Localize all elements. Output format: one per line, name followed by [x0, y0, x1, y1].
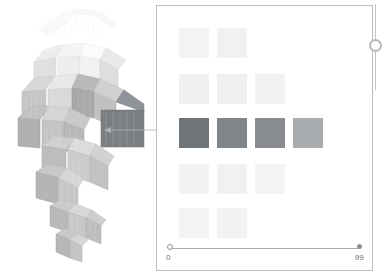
slider-handle-max[interactable]: [357, 244, 362, 249]
grid-cell[interactable]: [217, 118, 247, 148]
grid-cell-selected[interactable]: [179, 118, 209, 148]
detail-grid[interactable]: [157, 6, 372, 232]
grid-row[interactable]: [179, 28, 255, 66]
edge-knob-handle[interactable]: [369, 39, 382, 52]
edge-knob-control[interactable]: [368, 0, 384, 100]
detail-panel[interactable]: 0 99: [156, 5, 373, 271]
grid-row[interactable]: [179, 74, 293, 112]
grid-cell[interactable]: [293, 118, 323, 148]
slider-label-min: 0: [166, 253, 171, 263]
slider-handle-min[interactable]: [167, 244, 173, 250]
grid-cell[interactable]: [255, 164, 285, 194]
grid-cell[interactable]: [255, 74, 285, 104]
grid-cell[interactable]: [217, 164, 247, 194]
helix-selected-block[interactable]: [101, 110, 144, 147]
grid-row-highlighted[interactable]: [179, 118, 331, 156]
grid-row[interactable]: [179, 164, 293, 202]
helix-canvas[interactable]: [0, 0, 156, 278]
slider-label-max: 99: [355, 253, 364, 263]
grid-cell[interactable]: [179, 164, 209, 194]
grid-cell[interactable]: [179, 74, 209, 104]
helix-top-fan: [38, 9, 118, 38]
grid-cell[interactable]: [255, 118, 285, 148]
grid-cell[interactable]: [217, 28, 247, 58]
helix-viewport[interactable]: [0, 0, 156, 278]
grid-cell[interactable]: [179, 28, 209, 58]
grid-cell[interactable]: [217, 74, 247, 104]
range-slider[interactable]: 0 99: [157, 232, 372, 270]
app-root: 0 99: [0, 0, 384, 278]
slider-track[interactable]: [170, 248, 359, 249]
